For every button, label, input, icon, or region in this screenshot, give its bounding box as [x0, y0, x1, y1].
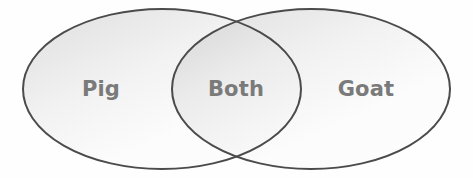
left-set-label: Pig	[82, 77, 120, 101]
intersection-label: Both	[208, 77, 264, 101]
venn-diagram-canvas: Pig Both Goat	[0, 0, 473, 178]
right-set-label: Goat	[338, 77, 395, 101]
venn-diagram-figure: Pig Both Goat	[0, 0, 473, 178]
